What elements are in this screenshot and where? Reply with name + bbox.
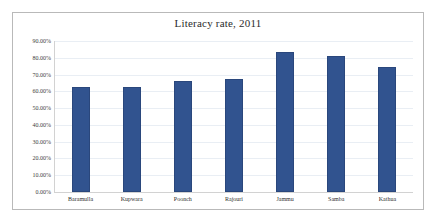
bar-group: Jammu: [260, 41, 311, 192]
chart-title: Literacy rate, 2011: [13, 17, 423, 29]
x-axis-tick-label: Baramulla: [68, 196, 93, 202]
bar[interactable]: [378, 67, 396, 192]
y-axis-tick-label: 80.00%: [33, 55, 52, 61]
bar-series: BaramullaKupwaraPoonchRajouriJammuSambaK…: [55, 41, 413, 192]
bar-group: Poonch: [157, 41, 208, 192]
y-axis-tick-label: 60.00%: [33, 88, 52, 94]
y-axis-tick-label: 20.00%: [33, 155, 52, 161]
y-axis-tick-label: 10.00%: [33, 172, 52, 178]
y-axis-tick-label: 30.00%: [33, 139, 52, 145]
bar-group: Baramulla: [55, 41, 106, 192]
bar[interactable]: [72, 87, 90, 192]
x-axis-tick-label: Jammu: [276, 196, 293, 202]
chart-frame: Literacy rate, 2011 0.00%10.00%20.00%30.…: [12, 12, 424, 210]
y-axis-tick-label: 40.00%: [33, 122, 52, 128]
x-axis-tick-label: Poonch: [174, 196, 192, 202]
plot-area: 0.00%10.00%20.00%30.00%40.00%50.00%60.00…: [54, 41, 413, 193]
bar[interactable]: [276, 52, 294, 192]
x-axis-tick-label: Kupwara: [121, 196, 143, 202]
bar[interactable]: [174, 81, 192, 192]
x-axis-tick-label: Samba: [328, 196, 344, 202]
bar-group: Rajouri: [208, 41, 259, 192]
y-axis-tick-label: 0.00%: [36, 189, 52, 195]
y-axis-tick-label: 70.00%: [33, 72, 52, 78]
y-axis-tick-label: 50.00%: [33, 105, 52, 111]
x-axis-tick-label: Rajouri: [225, 196, 243, 202]
bar-group: Kathua: [362, 41, 413, 192]
bar[interactable]: [327, 56, 345, 192]
x-axis-tick-label: Kathua: [379, 196, 396, 202]
bar[interactable]: [123, 87, 141, 192]
bar-group: Kupwara: [106, 41, 157, 192]
bar-group: Samba: [311, 41, 362, 192]
y-axis-tick-label: 90.00%: [33, 38, 52, 44]
bar[interactable]: [225, 79, 243, 192]
